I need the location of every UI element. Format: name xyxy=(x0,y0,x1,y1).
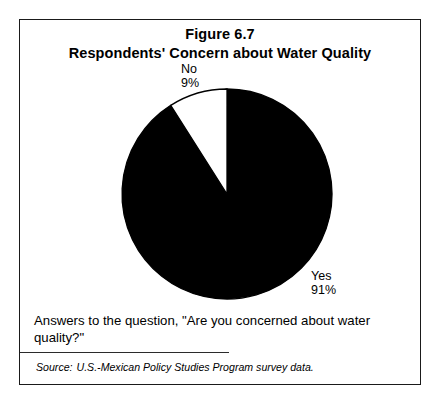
figure-title: Respondents' Concern about Water Quality xyxy=(19,44,421,63)
pie-label-yes-name: Yes xyxy=(311,270,336,284)
figure-source: Source:U.S.-Mexican Policy Studies Progr… xyxy=(36,361,406,374)
pie-label-yes: Yes 91% xyxy=(311,270,336,297)
source-text: U.S.-Mexican Policy Studies Program surv… xyxy=(77,361,314,373)
source-divider xyxy=(20,352,229,353)
pie-chart xyxy=(118,84,336,304)
figure-container: Figure 6.7 Respondents' Concern about Wa… xyxy=(0,0,444,400)
figure-title-block: Figure 6.7 Respondents' Concern about Wa… xyxy=(19,25,421,63)
figure-caption: Answers to the question, "Are you concer… xyxy=(34,312,384,346)
source-label: Source: xyxy=(36,361,73,373)
pie-label-no-value: 9% xyxy=(181,77,199,91)
pie-label-yes-value: 91% xyxy=(311,284,336,298)
pie-label-no-name: No xyxy=(181,63,199,77)
pie-chart-svg xyxy=(118,84,336,304)
figure-number: Figure 6.7 xyxy=(19,25,421,43)
pie-label-no: No 9% xyxy=(181,63,199,90)
